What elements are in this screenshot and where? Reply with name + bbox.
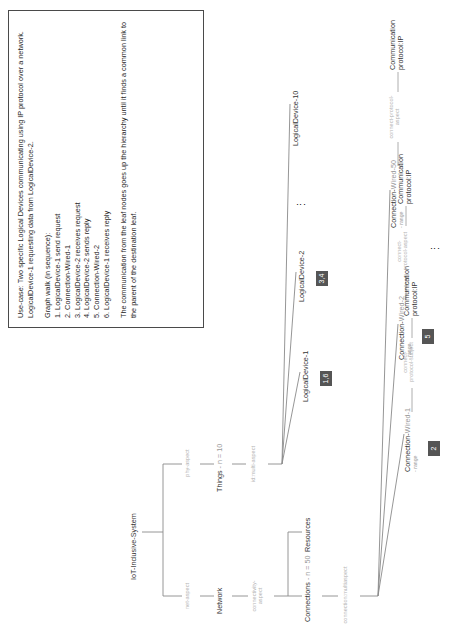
graph-walk-step-3: 3. LogicalDevice-2 receives request	[73, 20, 83, 318]
edge-label-net-aspect: net-aspect	[184, 572, 190, 620]
edge-label-connect-protocol-aspect-50: connect-protocol- aspect	[388, 88, 400, 146]
node-logical-device-10[interactable]: LogicalDevice-10	[292, 91, 300, 146]
edge-fan-conn-2	[378, 324, 398, 596]
graph-walk-step-4: 4. LogicalDevice-2 sends reply	[82, 20, 92, 318]
node-connection-wired-1[interactable]: Connection-Wired-1 - range	[404, 408, 419, 472]
node-root[interactable]: IoT-Inclusive-System	[130, 513, 138, 580]
edge-fan-ld-1	[282, 372, 300, 464]
node-network[interactable]: Network	[216, 588, 224, 614]
node-logical-device-1[interactable]: LogicalDevice-1	[302, 351, 310, 402]
node-things[interactable]: Things - n = 10	[216, 444, 224, 492]
node-logical-device-2[interactable]: LogicalDevice-2	[298, 251, 306, 302]
badge-logical-device-2: 3,4	[316, 271, 328, 286]
graph-walk-title: Graph walk (in sequence):	[43, 20, 53, 318]
edge-label-connectivity-aspect: connectivity- aspect	[251, 571, 263, 621]
node-resources[interactable]: Resources	[304, 518, 312, 552]
conclusion-text: The communication from the leaf nodes go…	[119, 20, 138, 318]
connections-ellipsis: ⋮	[430, 242, 441, 255]
graph-walk-step-5: 5. Connection-Wired-2	[92, 20, 102, 318]
node-communication-protocol-50[interactable]: Communication protocol:IP	[389, 20, 406, 70]
figure-root: IoT-Inclusive-System net-aspect Network …	[0, 0, 458, 624]
diagram-canvas: IoT-Inclusive-System net-aspect Network …	[0, 0, 458, 624]
node-connections[interactable]: Connections - n = 50	[304, 555, 312, 622]
edge-label-connection-multiaspect: connection:multiaspect	[342, 562, 348, 624]
graph-walk-step-6: 6. LogicalDevice-1 receives reply	[102, 20, 112, 318]
badge-connection-wired-1: 2	[428, 441, 440, 456]
edge-label-connect-protocol-aspect-2: connect- protocol-aspect	[396, 224, 408, 278]
logical-devices-ellipsis: ⋮	[296, 198, 307, 211]
graph-walk-step-2: 2. Connection-Wired-1	[63, 20, 73, 318]
graph-walk-step-1: 1. LogicalDevice-1 send request	[53, 20, 63, 318]
node-connection-wired-2[interactable]: Connection-Wired-2 - range	[398, 296, 413, 360]
badge-connection-wired-2: 5	[422, 329, 434, 344]
edge-label-id-multi-aspect: id:multi-aspect	[250, 435, 256, 493]
edge-label-phy-aspect: phy-aspect	[184, 440, 190, 486]
usecase-infobox: Use-case: Two specific Logical Devices c…	[8, 10, 204, 328]
usecase-text: Use-case: Two specific Logical Devices c…	[16, 20, 35, 318]
node-connection-wired-50[interactable]: Connection-Wired-50 - range	[390, 160, 405, 228]
badge-logical-device-1: 1,6	[320, 371, 332, 386]
